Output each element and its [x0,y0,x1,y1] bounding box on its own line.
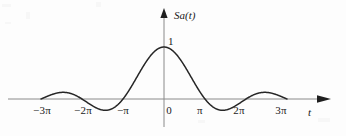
x-tick-label-negpi: −π [105,104,141,116]
y-value-label-one: 1 [168,35,174,47]
x-tick-label-neg2pi: −2π [63,104,103,116]
x-tick-label-neg3pi: −3π [22,104,62,116]
x-axis-arrowhead [317,95,331,103]
y-axis-title: Sa(t) [174,9,195,21]
x-tick-label-3pi: 3π [266,104,296,116]
x-tick-label-pi: π [188,104,212,116]
y-axis-arrowhead [160,8,167,18]
x-tick-label-zero: 0 [154,104,184,116]
sa-function-figure: −3π −2π −π 0 π 2π 3π 1 Sa(t) t [0,0,346,136]
x-axis-title: t [308,106,311,118]
x-tick-label-2pi: 2π [224,104,254,116]
